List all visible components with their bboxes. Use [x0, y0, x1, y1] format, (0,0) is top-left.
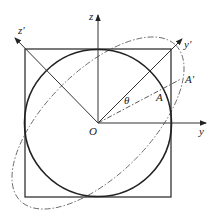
- z-label: z: [88, 10, 94, 22]
- point-a-label: A: [155, 91, 163, 103]
- y-label: y: [198, 125, 204, 137]
- y-prime-label: y': [183, 38, 192, 50]
- point-a-prime-label: A': [184, 73, 195, 85]
- theta-label: θ: [124, 94, 130, 106]
- diagram-canvas: z y z' y' O A A' θ: [0, 0, 220, 217]
- z-prime-label: z': [17, 24, 25, 36]
- y-prime-axis: [98, 39, 182, 123]
- origin-label: O: [89, 125, 97, 137]
